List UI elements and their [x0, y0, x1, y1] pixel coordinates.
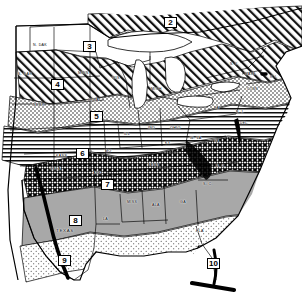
zone-label-8: 8 [69, 215, 82, 226]
state-label-pa: PA [214, 106, 219, 110]
state-label-miss: MISS [127, 200, 137, 204]
state-label-wva: W. VA [190, 136, 201, 140]
state-label-ala: ALA [152, 203, 160, 207]
zone-label-10: 10 [207, 258, 220, 269]
zone-label-5: 5 [90, 111, 103, 122]
zone-label-2: 2 [164, 17, 177, 28]
zone-label-4: 4 [51, 79, 64, 90]
state-label-la: LA [103, 217, 108, 221]
state-label-ohio: OHIO [170, 126, 181, 130]
state-label-tenn: TENN [148, 163, 159, 167]
state-label-ga: GA [180, 200, 186, 204]
state-label-nc: N. C. [216, 164, 226, 168]
zone-label-3: 3 [83, 41, 96, 52]
state-label-ndak: N. DAK [33, 43, 47, 47]
state-label-sc: S. C. [203, 182, 213, 186]
state-label-minn: MINN [78, 71, 89, 75]
state-label-conn: CONN [247, 87, 258, 91]
hardiness-zone-map: 2 3 4 5 6 7 8 9 10 N. DAK S. DAK NEBR MI… [0, 0, 302, 299]
state-label-ind: IND [148, 126, 155, 130]
state-label-sdak: S. DAK [18, 72, 32, 76]
state-label-va: VA [214, 139, 219, 143]
state-label-texas: TEXAS [56, 229, 74, 233]
state-label-iowa: IOWA [88, 98, 99, 102]
zone-label-7: 7 [101, 179, 114, 190]
state-label-nebr: NEBR [33, 103, 44, 107]
state-label-okla: OKLA [50, 167, 61, 171]
zone-label-9: 9 [58, 255, 71, 266]
state-label-mich: MICH [151, 87, 162, 91]
state-label-kans: KANS [56, 154, 67, 158]
zone-label-6: 6 [76, 148, 89, 159]
state-label-ark: ARK [93, 171, 101, 175]
state-label-mo: MO [105, 149, 112, 153]
lake-erie [177, 96, 213, 107]
state-label-ill: ILL [124, 132, 130, 136]
lake-michigan [132, 60, 148, 109]
state-label-nj: N. J. [236, 110, 244, 114]
state-label-mass: MASS [245, 72, 255, 76]
state-label-del: DEL. [240, 121, 249, 125]
state-label-ky: KY [165, 141, 171, 145]
state-label-wis: WIS [112, 76, 120, 80]
state-label-ri: R. I. [270, 75, 278, 79]
state-label-ny: N. Y. [230, 62, 238, 66]
state-label-fla: FLA [196, 229, 204, 233]
